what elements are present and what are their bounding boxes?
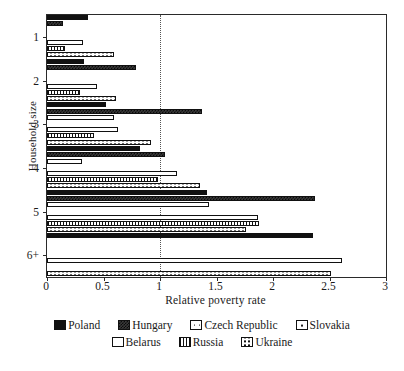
- bar-ukraine-4: [47, 183, 200, 188]
- legend-swatch-icon-belarus: [112, 337, 124, 347]
- plot-area: 123456+: [46, 14, 387, 278]
- legend-item-slovakia[interactable]: Slovakia: [296, 319, 350, 331]
- legend-row-1: PolandHungaryCzech RepublicSlovakia: [0, 316, 404, 333]
- legend-swatch-icon-poland: [54, 320, 66, 330]
- legend-label: Hungary: [132, 319, 172, 331]
- x-tick-label-5: 2.5: [309, 280, 349, 292]
- y-tick-mark-4: [43, 168, 47, 169]
- bar-ukraine-6plus: [47, 271, 331, 276]
- y-tick-mark-6plus: [43, 255, 47, 256]
- legend-item-czech-republic[interactable]: Czech Republic: [190, 319, 277, 331]
- legend-label: Czech Republic: [204, 319, 277, 331]
- y-tick-label-4: 4: [0, 162, 39, 174]
- legend-label: Slovakia: [310, 319, 350, 331]
- bar-belarus-3: [47, 127, 118, 132]
- x-axis-title: Relative poverty rate: [46, 294, 385, 306]
- legend-swatch-icon-slovakia: [296, 320, 308, 330]
- bar-belarus-6plus: [47, 258, 342, 263]
- y-tick-label-3: 3: [0, 118, 39, 130]
- bar-ukraine-1: [47, 52, 114, 57]
- bar-poland-6plus: [47, 233, 313, 238]
- legend-swatch-icon-hungary: [118, 320, 130, 330]
- bar-belarus-1: [47, 40, 83, 45]
- bar-ukraine-3: [47, 140, 151, 145]
- y-tick-label-6plus: 6+: [0, 249, 39, 261]
- legend-label: Ukraine: [255, 336, 292, 348]
- legend-item-hungary[interactable]: Hungary: [118, 319, 172, 331]
- legend-item-russia[interactable]: Russia: [179, 336, 224, 348]
- y-tick-label-5: 5: [0, 206, 39, 218]
- bar-russia-5: [47, 221, 259, 226]
- legend-swatch-icon-russia: [179, 337, 191, 347]
- bar-group-1: [47, 15, 386, 58]
- bar-poland-5: [47, 190, 207, 195]
- x-tick-label-0: 0: [26, 280, 66, 292]
- bar-poland-1: [47, 15, 88, 20]
- y-tick-mark-5: [43, 212, 47, 213]
- x-tick-label-4: 2: [252, 280, 292, 292]
- bar-group-2: [47, 59, 386, 102]
- bar-czech-republic-5: [47, 202, 209, 207]
- y-tick-label-1: 1: [0, 31, 39, 43]
- legend-item-poland[interactable]: Poland: [54, 319, 100, 331]
- bar-ukraine-5: [47, 227, 246, 232]
- bar-belarus-4: [47, 171, 177, 176]
- bar-belarus-5: [47, 215, 258, 220]
- x-tick-label-6: 3: [365, 280, 404, 292]
- y-tick-mark-3: [43, 124, 47, 125]
- bar-poland-2: [47, 59, 84, 64]
- legend-swatch-icon-ukraine: [241, 337, 253, 347]
- bar-russia-4: [47, 177, 158, 182]
- bar-hungary-1: [47, 21, 63, 26]
- legend-row-2: BelarusRussiaUkraine: [0, 333, 404, 350]
- bar-poland-4: [47, 146, 140, 151]
- bar-hungary-5: [47, 196, 315, 201]
- bar-russia-2: [47, 90, 80, 95]
- bar-group-3: [47, 102, 386, 145]
- bar-hungary-2: [47, 65, 136, 70]
- legend-label: Poland: [68, 319, 100, 331]
- bar-hungary-4: [47, 152, 165, 157]
- y-tick-label-2: 2: [0, 75, 39, 87]
- bar-ukraine-2: [47, 96, 116, 101]
- bar-russia-3: [47, 133, 94, 138]
- y-tick-mark-1: [43, 37, 47, 38]
- bar-group-6plus: [47, 233, 386, 276]
- chart-figure: Household size 123456+ 00.511.522.53 Rel…: [0, 0, 404, 371]
- legend-item-belarus[interactable]: Belarus: [112, 336, 161, 348]
- legend-label: Belarus: [126, 336, 161, 348]
- bar-belarus-2: [47, 84, 97, 89]
- x-tick-label-2: 1: [139, 280, 179, 292]
- bar-hungary-3: [47, 109, 202, 114]
- bar-group-4: [47, 146, 386, 189]
- y-tick-mark-2: [43, 81, 47, 82]
- bar-poland-3: [47, 102, 106, 107]
- legend: PolandHungaryCzech RepublicSlovakia Bela…: [0, 316, 404, 350]
- legend-swatch-icon-czech-republic: [190, 320, 202, 330]
- x-tick-label-3: 1.5: [196, 280, 236, 292]
- x-tick-label-1: 0.5: [83, 280, 123, 292]
- bar-czech-republic-4: [47, 159, 82, 164]
- legend-label: Russia: [193, 336, 224, 348]
- bar-czech-republic-3: [47, 115, 114, 120]
- bar-group-5: [47, 190, 386, 233]
- legend-item-ukraine[interactable]: Ukraine: [241, 336, 292, 348]
- bar-russia-1: [47, 46, 65, 51]
